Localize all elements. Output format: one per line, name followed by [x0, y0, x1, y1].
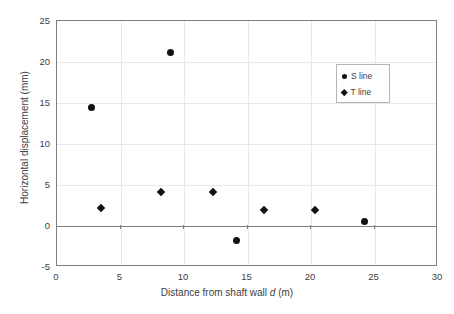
x-tick-label-10: 10 [163, 271, 203, 282]
data-point-t-line-0 [97, 204, 105, 212]
x-tick-mark-25 [374, 225, 375, 229]
x-tick-label-25: 25 [354, 271, 394, 282]
gridline-y-10 [57, 144, 436, 145]
diamond-marker-icon [341, 89, 347, 95]
scatter-chart-figure: -50510152025 051015202530 Distance from … [0, 0, 454, 314]
gridline-x-20 [311, 21, 312, 265]
chart-legend: S lineT line [336, 64, 390, 103]
legend-item-label: T line [351, 87, 372, 97]
gridline-x-5 [121, 21, 122, 265]
plot-area [56, 20, 437, 266]
x-tick-mark-5 [120, 225, 121, 229]
data-point-s-line-0 [88, 104, 95, 111]
x-tick-mark-10 [183, 225, 184, 229]
data-point-s-line-1 [167, 49, 174, 56]
x-tick-label-0: 0 [36, 271, 76, 282]
x-axis-title-prefix: Distance from shaft wall [161, 287, 270, 298]
data-point-t-line-1 [157, 187, 165, 195]
gridline-x-15 [248, 21, 249, 265]
data-point-s-line-2 [233, 237, 240, 244]
x-tick-mark-15 [247, 225, 248, 229]
y-tick-label-25: 25 [6, 15, 50, 26]
x-tick-label-30: 30 [417, 271, 454, 282]
x-tick-label-5: 5 [100, 271, 140, 282]
x-tick-mark-20 [310, 225, 311, 229]
x-tick-label-20: 20 [290, 271, 330, 282]
circle-marker-icon [342, 74, 347, 79]
gridline-x-25 [375, 21, 376, 265]
legend-item-t-line[interactable]: T line [342, 87, 371, 97]
x-axis-title-suffix: (m) [275, 287, 293, 298]
x-tick-label-15: 15 [227, 271, 267, 282]
data-point-t-line-3 [260, 206, 268, 214]
gridline-y-20 [57, 62, 436, 63]
y-axis-title: Horizontal displacement (mm) [19, 38, 30, 238]
gridline-y-15 [57, 103, 436, 104]
x-axis-title: Distance from shaft wall d (m) [0, 287, 454, 298]
data-point-s-line-3 [361, 218, 368, 225]
gridline-x-10 [184, 21, 185, 265]
legend-item-s-line[interactable]: S line [342, 71, 372, 81]
legend-item-label: S line [351, 71, 372, 81]
gridline-y-5 [57, 185, 436, 186]
data-point-t-line-2 [209, 187, 217, 195]
